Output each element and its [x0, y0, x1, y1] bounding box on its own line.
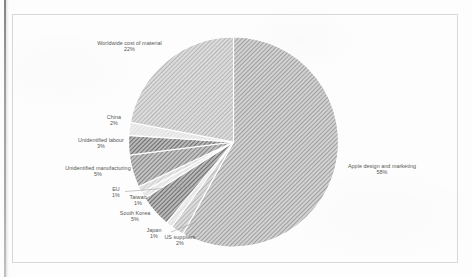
label-percent: 1% [107, 192, 125, 198]
label-text: Apple design and marketing [348, 163, 416, 169]
label-text: South Korea [120, 210, 151, 216]
label-percent: 3% [63, 143, 139, 149]
label-text: US suppliers [164, 234, 195, 240]
label-text: Japan [147, 227, 162, 233]
slice-label-south-korea: South Korea 5% [113, 210, 157, 223]
label-text: Worldwide cost of material [97, 40, 161, 46]
label-percent: 22% [77, 46, 182, 52]
slice-label-eu: EU 1% [107, 186, 125, 199]
label-percent: 1% [124, 200, 152, 206]
slice-label-apple-design-and-marketing: Apple design and marketing 58% [337, 163, 427, 176]
pie-slices-group [129, 37, 339, 247]
label-text: Unidentified manufacturing [65, 165, 130, 171]
label-text: Unidentified labour [78, 137, 124, 143]
label-percent: 5% [113, 216, 157, 222]
label-text: China [107, 114, 121, 120]
label-percent: 5% [46, 171, 150, 177]
slice-label-taiwan: Taiwan 1% [124, 194, 152, 207]
label-text: EU [112, 186, 120, 192]
label-percent: 2% [96, 120, 132, 126]
slice-label-worldwide-cost-of-material: Worldwide cost of material 22% [77, 40, 182, 53]
label-text: Taiwan [129, 194, 146, 200]
slice-label-us-suppliers: US suppliers 2% [159, 234, 201, 247]
slice-label-unidentified-labour: Unidentified labour 3% [63, 137, 139, 150]
label-percent: 58% [337, 169, 427, 175]
slice-label-china: China 2% [96, 114, 132, 127]
label-percent: 2% [159, 240, 201, 246]
slice-label-unidentified-manufacturing: Unidentified manufacturing 5% [46, 165, 150, 178]
